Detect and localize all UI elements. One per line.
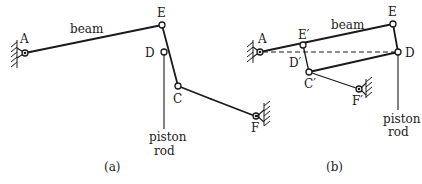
label-e-b: E — [388, 5, 397, 19]
link-cf — [178, 86, 211, 99]
joint-e-b — [390, 21, 396, 27]
label-rod-b: rod — [388, 125, 409, 139]
pivot-f: F — [251, 101, 270, 135]
joint-c — [175, 83, 181, 89]
label-rod: rod — [154, 144, 175, 158]
panel-b: A beam E′ E D D′ C′ F′ piston rod (b) — [247, 5, 421, 174]
panel-a: A beam E D C piston rod (a) — [11, 6, 255, 174]
label-piston: piston — [149, 130, 187, 144]
beam-link-b — [260, 24, 393, 52]
label-dprime: D′ — [289, 56, 302, 70]
label-e: E — [157, 6, 166, 20]
caption-b: (b) — [326, 160, 343, 174]
label-cprime: C′ — [304, 77, 316, 91]
joint-d — [161, 49, 167, 55]
label-fprime: F′ — [352, 94, 363, 108]
link-cf-continued — [211, 99, 255, 116]
label-a-b: A — [257, 32, 267, 46]
label-d: D — [145, 46, 155, 60]
link-ed — [393, 24, 398, 52]
label-a: A — [19, 32, 29, 46]
ground-support-f-icon — [264, 101, 270, 126]
joint-eprime — [300, 42, 306, 48]
linkage-figure: A beam E D C piston rod (a) F — [0, 0, 422, 184]
label-d-b: D — [405, 46, 415, 60]
link-eprime-cprime — [303, 45, 309, 72]
link-cprime-d — [309, 52, 398, 72]
caption-a: (a) — [104, 160, 121, 174]
joint-d-b — [395, 49, 401, 55]
label-beam: beam — [70, 22, 104, 36]
label-c: C — [173, 92, 182, 106]
link-cprime-fprime — [309, 72, 359, 89]
label-eprime: E′ — [298, 28, 310, 42]
joint-cprime — [306, 69, 312, 75]
label-f: F — [251, 121, 259, 135]
label-beam-b: beam — [331, 18, 365, 32]
label-piston-b: piston — [383, 112, 421, 126]
joint-e — [159, 22, 165, 28]
